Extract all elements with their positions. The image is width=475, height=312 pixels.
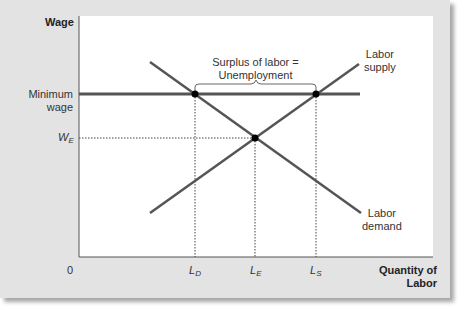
surplus-annotation: Surplus of labor = Unemployment — [208, 56, 303, 82]
le-label: LE — [250, 264, 261, 280]
ls-label: LS — [310, 264, 321, 280]
point-ls — [313, 91, 320, 98]
origin-label: 0 — [67, 264, 73, 277]
ld-label: LD — [189, 264, 201, 280]
demand-annotation: Labor demand — [362, 207, 402, 233]
point-equilibrium — [252, 135, 259, 142]
min-wage-label: Minimum wage — [28, 88, 73, 114]
we-label: WE — [58, 131, 74, 147]
supply-annotation: Labor supply — [364, 48, 396, 74]
x-axis-label: Quantity of Labor — [370, 264, 437, 290]
point-ld — [192, 91, 199, 98]
y-axis-label: Wage — [45, 16, 74, 29]
